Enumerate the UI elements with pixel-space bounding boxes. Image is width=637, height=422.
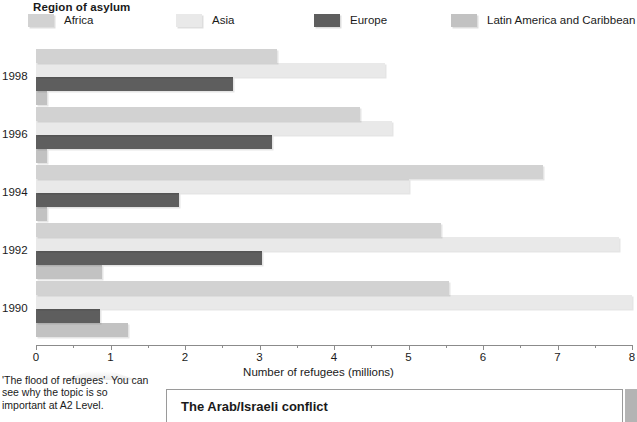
bar (36, 265, 102, 279)
x-axis-tick (483, 345, 484, 350)
x-axis-minor-tick (148, 345, 149, 348)
bar (36, 223, 441, 237)
y-axis-tick-label: 1990 (2, 303, 32, 315)
x-axis-minor-tick (371, 345, 372, 348)
bar (36, 135, 272, 149)
x-axis-tick (558, 345, 559, 350)
bar (36, 165, 543, 179)
x-axis-tick (409, 345, 410, 350)
chart-caption: 'The flood of refugees'. You can see why… (2, 374, 154, 411)
x-axis-minor-tick (520, 345, 521, 348)
x-axis-tick (260, 345, 261, 350)
x-axis-minor-tick (222, 345, 223, 348)
bar-chart-plot-area: 19981996199419921990 (0, 45, 637, 345)
legend-item-label: Asia (212, 14, 234, 26)
bar (36, 77, 233, 91)
bar (36, 179, 409, 193)
x-axis-minor-tick (595, 345, 596, 348)
x-axis-tick (36, 345, 37, 350)
bar (36, 207, 47, 221)
legend-item-asia: Asia (176, 14, 234, 27)
bar (36, 251, 262, 265)
section-box: The Arab/Israeli conflict (166, 389, 623, 422)
x-axis-minor-tick (73, 345, 74, 348)
bar-group: 1994 (0, 165, 637, 221)
y-axis-tick-label: 1992 (2, 245, 32, 257)
x-axis-tick (334, 345, 335, 350)
bar (36, 49, 277, 63)
bar (36, 193, 179, 207)
x-axis-tick (632, 345, 633, 350)
legend-swatch-icon (28, 14, 54, 27)
page-edge-decoration (625, 389, 637, 422)
x-axis-minor-tick (297, 345, 298, 348)
legend-item-africa: Africa (28, 14, 93, 27)
legend-item-label: Latin America and Caribbean (487, 14, 635, 26)
x-axis-tick-label: 2 (182, 351, 188, 363)
y-axis-tick-label: 1996 (2, 129, 32, 141)
x-axis-minor-tick (446, 345, 447, 348)
x-axis-tick-label: 0 (33, 351, 39, 363)
bar (36, 121, 392, 135)
bar-group: 1998 (0, 49, 637, 105)
section-title: The Arab/Israeli conflict (181, 399, 328, 414)
x-axis-tick-label: 1 (107, 351, 113, 363)
legend-item-label: Europe (350, 14, 387, 26)
x-axis-tick-label: 7 (554, 351, 560, 363)
bar (36, 149, 47, 163)
x-axis-tick-label: 4 (331, 351, 337, 363)
x-axis-tick (111, 345, 112, 350)
bar (36, 281, 449, 295)
x-axis-tick-label: 8 (629, 351, 635, 363)
legend-item-latin-america-and-caribbean: Latin America and Caribbean (451, 14, 635, 27)
x-axis-tick-label: 3 (256, 351, 262, 363)
bar (36, 309, 100, 323)
y-axis-tick-label: 1998 (2, 71, 32, 83)
legend-item-europe: Europe (314, 14, 387, 27)
legend-item-label: Africa (64, 14, 93, 26)
y-axis-tick-label: 1994 (2, 187, 32, 199)
bar-group: 1992 (0, 223, 637, 279)
x-axis-tick-label: 6 (480, 351, 486, 363)
legend-swatch-icon (451, 14, 477, 27)
bar (36, 91, 47, 105)
bar (36, 237, 619, 251)
bar (36, 323, 128, 337)
bar-group: 1996 (0, 107, 637, 163)
bar (36, 295, 632, 309)
legend-swatch-icon (176, 14, 202, 27)
bar (36, 107, 360, 121)
legend-swatch-icon (314, 14, 340, 27)
x-axis-tick (185, 345, 186, 350)
legend-title: Region of asylum (33, 1, 130, 13)
bar-group: 1990 (0, 281, 637, 337)
bar (36, 63, 385, 77)
x-axis-tick-label: 5 (405, 351, 411, 363)
